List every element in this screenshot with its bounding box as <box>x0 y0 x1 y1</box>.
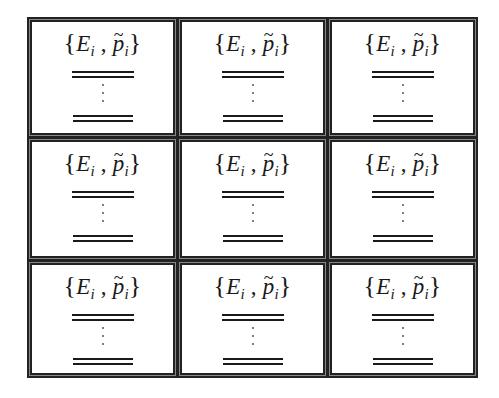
vertical-ellipsis-icon <box>402 204 404 222</box>
double-line-bottom <box>373 115 433 122</box>
right-brace: } <box>429 271 442 300</box>
double-line-top <box>222 71 284 78</box>
right-brace: } <box>279 28 292 57</box>
formula-label: {Ei , ~pi} <box>364 271 442 302</box>
cell-content: {Ei , ~pi} <box>334 144 471 254</box>
tilde-accent: ~ <box>114 140 124 170</box>
vertical-ellipsis-icon <box>402 84 404 102</box>
energy-variable: E <box>376 151 390 176</box>
tilde-accent: ~ <box>264 140 274 170</box>
cell-content: {Ei , ~pi} <box>34 24 171 131</box>
double-line-top <box>72 71 134 78</box>
separator: , <box>395 274 413 299</box>
formula-label: {Ei , ~pi} <box>364 148 442 179</box>
grid-cell: {Ei , ~pi} <box>27 137 178 261</box>
left-brace: { <box>64 148 77 177</box>
formula-label: {Ei , ~pi} <box>364 28 442 59</box>
double-line-bottom <box>223 235 283 242</box>
formula-label: {Ei , ~pi} <box>64 148 142 179</box>
right-brace: } <box>429 148 442 177</box>
grid-cell: {Ei , ~pi} <box>177 137 328 261</box>
vertical-ellipsis-icon <box>102 327 104 345</box>
cell-content: {Ei , ~pi} <box>34 144 171 254</box>
energy-variable: E <box>376 31 390 56</box>
tilde-accent: ~ <box>264 20 274 50</box>
grid-cell: {Ei , ~pi} <box>327 260 478 378</box>
vertical-ellipsis-icon <box>252 84 254 102</box>
cell-content: {Ei , ~pi} <box>34 267 171 371</box>
left-brace: { <box>364 148 377 177</box>
tilde-accent: ~ <box>414 263 424 293</box>
double-line-top <box>72 191 134 198</box>
formula-label: {Ei , ~pi} <box>64 28 142 59</box>
tilde-accent: ~ <box>414 140 424 170</box>
double-line-bottom <box>223 115 283 122</box>
separator: , <box>395 151 413 176</box>
cell-content: {Ei , ~pi} <box>184 267 321 371</box>
double-line-bottom <box>73 358 133 365</box>
right-brace: } <box>429 28 442 57</box>
right-brace: } <box>129 148 142 177</box>
tilde-accent: ~ <box>114 263 124 293</box>
double-line-top <box>222 314 284 321</box>
energy-variable: E <box>376 274 390 299</box>
double-line-bottom <box>73 235 133 242</box>
vertical-ellipsis-icon <box>252 204 254 222</box>
left-brace: { <box>364 28 377 57</box>
left-brace: { <box>64 28 77 57</box>
right-brace: } <box>279 271 292 300</box>
vertical-ellipsis-icon <box>402 327 404 345</box>
left-brace: { <box>214 271 227 300</box>
double-line-bottom <box>373 235 433 242</box>
vertical-ellipsis-icon <box>252 327 254 345</box>
separator: , <box>395 31 413 56</box>
separator: , <box>245 31 263 56</box>
grid-cell: {Ei , ~pi} <box>327 17 478 138</box>
double-line-bottom <box>73 115 133 122</box>
separator: , <box>95 151 113 176</box>
double-line-top <box>372 71 434 78</box>
grid-cell: {Ei , ~pi} <box>177 17 328 138</box>
right-brace: } <box>129 28 142 57</box>
formula-label: {Ei , ~pi} <box>214 271 292 302</box>
separator: , <box>245 274 263 299</box>
vertical-ellipsis-icon <box>102 84 104 102</box>
formula-label: {Ei , ~pi} <box>64 271 142 302</box>
left-brace: { <box>214 148 227 177</box>
energy-variable: E <box>76 31 90 56</box>
tilde-accent: ~ <box>414 20 424 50</box>
grid-cell: {Ei , ~pi} <box>177 260 328 378</box>
grid-cell: {Ei , ~pi} <box>27 17 178 138</box>
separator: , <box>95 31 113 56</box>
energy-variable: E <box>226 31 240 56</box>
tilde-accent: ~ <box>264 263 274 293</box>
vertical-ellipsis-icon <box>102 204 104 222</box>
tilde-accent: ~ <box>114 20 124 50</box>
right-brace: } <box>279 148 292 177</box>
cell-content: {Ei , ~pi} <box>184 144 321 254</box>
left-brace: { <box>364 271 377 300</box>
formula-label: {Ei , ~pi} <box>214 148 292 179</box>
double-line-top <box>372 314 434 321</box>
left-brace: { <box>64 271 77 300</box>
left-brace: { <box>214 28 227 57</box>
double-line-bottom <box>373 358 433 365</box>
cell-content: {Ei , ~pi} <box>334 267 471 371</box>
separator: , <box>95 274 113 299</box>
double-line-top <box>222 191 284 198</box>
cell-content: {Ei , ~pi} <box>334 24 471 131</box>
energy-variable: E <box>226 274 240 299</box>
separator: , <box>245 151 263 176</box>
right-brace: } <box>129 271 142 300</box>
cell-grid: {Ei , ~pi} {Ei , ~pi} {Ei , ~pi} <box>28 18 478 378</box>
energy-variable: E <box>226 151 240 176</box>
energy-variable: E <box>76 151 90 176</box>
formula-label: {Ei , ~pi} <box>214 28 292 59</box>
cell-content: {Ei , ~pi} <box>184 24 321 131</box>
grid-cell: {Ei , ~pi} <box>327 137 478 261</box>
energy-variable: E <box>76 274 90 299</box>
double-line-top <box>372 191 434 198</box>
double-line-top <box>72 314 134 321</box>
grid-cell: {Ei , ~pi} <box>27 260 178 378</box>
double-line-bottom <box>223 358 283 365</box>
